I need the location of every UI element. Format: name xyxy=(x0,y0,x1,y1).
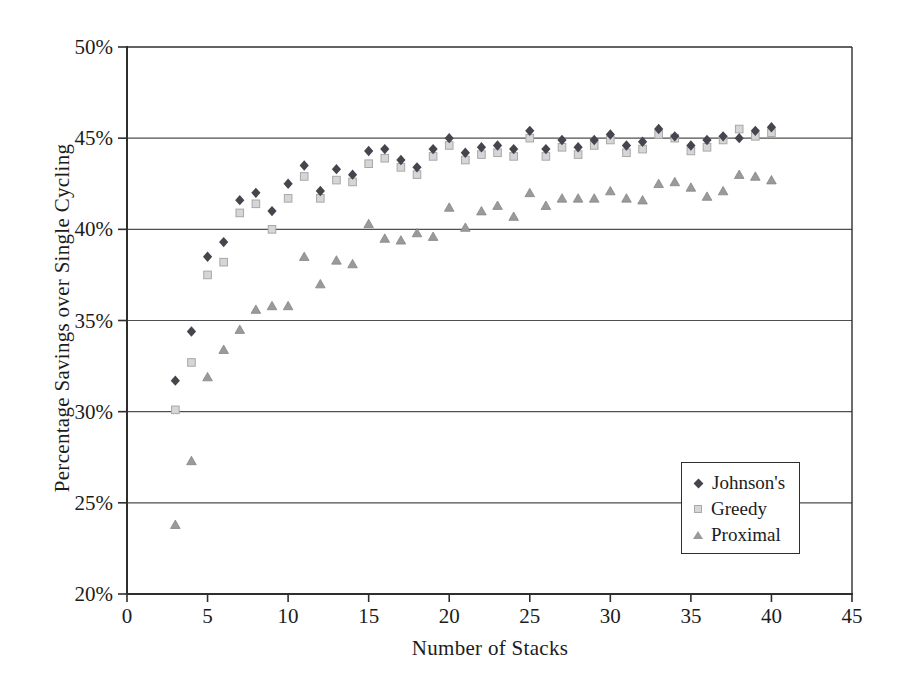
legend-label-greedy: Greedy xyxy=(711,498,767,520)
data-point-greedy xyxy=(381,154,389,162)
x-axis-tick-label: 30 xyxy=(600,604,621,628)
data-point-greedy xyxy=(204,271,212,279)
y-axis-tick-label: 30% xyxy=(75,400,114,424)
data-point-greedy xyxy=(333,176,341,184)
legend-label-johnsons: Johnson's xyxy=(712,472,785,494)
y-axis-tick-label: 45% xyxy=(75,126,114,150)
data-point-greedy xyxy=(284,195,292,203)
legend-item-proximal: Proximal xyxy=(693,522,799,548)
y-axis-title: Percentage Savings over Single Cycling xyxy=(50,144,75,493)
data-point-greedy xyxy=(268,226,276,234)
x-axis-tick-label: 25 xyxy=(519,604,540,628)
y-axis-tick-label: 20% xyxy=(75,582,114,606)
data-point-greedy xyxy=(300,173,308,181)
square-marker-icon xyxy=(694,505,702,513)
y-axis-tick-label: 50% xyxy=(75,35,114,59)
x-axis-tick-label: 45 xyxy=(842,604,863,628)
data-point-greedy xyxy=(252,200,260,208)
data-point-greedy xyxy=(365,160,373,168)
y-axis-tick-label: 35% xyxy=(75,309,114,333)
legend-item-johnsons: Johnson's xyxy=(693,470,799,496)
data-point-greedy xyxy=(172,406,180,414)
y-axis-tick-label: 40% xyxy=(75,217,114,241)
chart-figure: 20%25%30%35%40%45%50%051015202530354045 … xyxy=(0,0,902,693)
figure-background xyxy=(0,0,902,693)
x-axis-tick-label: 20 xyxy=(439,604,460,628)
triangle-marker-icon xyxy=(693,531,703,539)
x-axis-tick-label: 10 xyxy=(278,604,299,628)
data-point-greedy xyxy=(236,209,244,217)
data-point-greedy xyxy=(188,359,196,367)
data-point-greedy xyxy=(735,125,743,133)
x-axis-tick-label: 40 xyxy=(761,604,782,628)
x-axis-title: Number of Stacks xyxy=(412,636,568,661)
x-axis-tick-label: 15 xyxy=(358,604,379,628)
x-axis-tick-label: 5 xyxy=(202,604,213,628)
x-axis-tick-label: 35 xyxy=(680,604,701,628)
x-axis-tick-label: 0 xyxy=(122,604,133,628)
diamond-marker-icon xyxy=(694,478,704,488)
y-axis-tick-label: 25% xyxy=(75,491,114,515)
legend-label-proximal: Proximal xyxy=(711,524,781,546)
legend-item-greedy: Greedy xyxy=(693,496,799,522)
chart-canvas: 20%25%30%35%40%45%50%051015202530354045 xyxy=(0,0,902,693)
data-point-greedy xyxy=(220,258,228,266)
legend: Johnson's Greedy Proximal xyxy=(681,462,800,554)
